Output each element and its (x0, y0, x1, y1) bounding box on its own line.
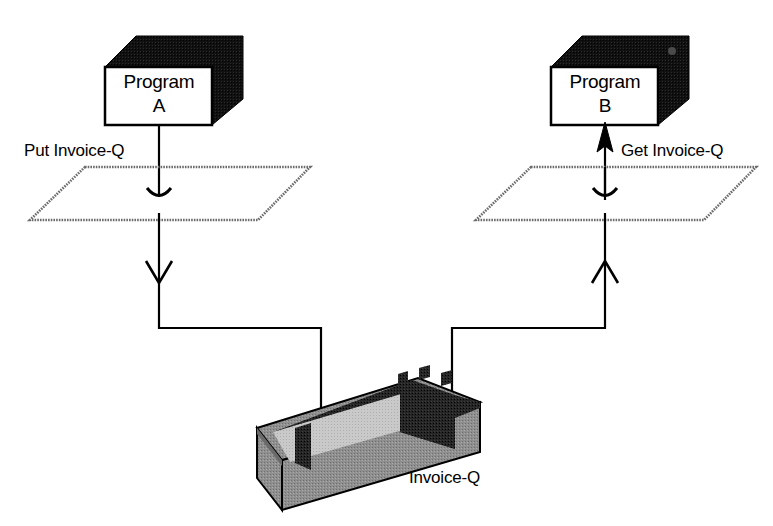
put-edge-upper (147, 125, 171, 197)
diagram-canvas: Program A Program B Put Invoice-Q Get In… (0, 0, 773, 526)
boundary-plane-left-outline (30, 167, 310, 220)
put-edge-label: Put Invoice-Q (24, 141, 124, 161)
get-edge-lower (592, 213, 618, 295)
queue-node[interactable] (257, 365, 480, 510)
program-b-label-line1: Program (551, 72, 659, 91)
get-edge-plane-marker (593, 167, 617, 200)
queue-message-tab-1 (398, 371, 408, 385)
boundary-plane-right (476, 167, 756, 220)
put-route-polyline (159, 290, 321, 425)
queue-label: Invoice-Q (409, 468, 480, 488)
get-edge-label: Get Invoice-Q (621, 141, 723, 161)
boundary-plane-left (30, 167, 310, 220)
program-b-box-speck (668, 47, 676, 55)
program-b-label-line2: B (551, 96, 659, 115)
put-edge-lower (146, 213, 172, 290)
program-a-label-line1: Program (105, 72, 213, 91)
queue-message-tab-2 (419, 365, 430, 380)
boundary-plane-right-outline (476, 167, 756, 220)
queue-message-tab-3 (441, 370, 452, 386)
program-a-label-line2: A (105, 96, 213, 115)
queue-message-divider (295, 423, 311, 470)
